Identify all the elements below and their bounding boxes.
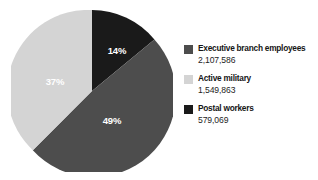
- legend-value-postal-workers: 579,069: [198, 114, 318, 126]
- legend-item-executive-branch-employees[interactable]: Executive branch employees 2,107,586: [184, 43, 318, 66]
- chart-legend: Executive branch employees 2,107,586 Act…: [184, 43, 318, 126]
- pie-slice-label-executive-branch: 49%: [103, 115, 122, 126]
- legend-label-active-military: Active military: [198, 73, 318, 84]
- legend-value-active-military: 1,549,863: [198, 84, 318, 96]
- pie-svg: 14% 49% 37%: [11, 10, 173, 172]
- legend-swatch-icon-active-military: [184, 75, 193, 84]
- legend-item-active-military[interactable]: Active military 1,549,863: [184, 73, 318, 96]
- legend-item-postal-workers[interactable]: Postal workers 579,069: [184, 103, 318, 126]
- legend-swatch-icon-executive-branch-employees: [184, 45, 193, 54]
- legend-label-executive-branch-employees: Executive branch employees: [198, 43, 318, 54]
- legend-value-executive-branch-employees: 2,107,586: [198, 54, 318, 66]
- pie-slice-label-postal-workers: 14%: [108, 45, 127, 56]
- pie-slice-label-active-military: 37%: [46, 76, 65, 87]
- pie-chart-figure: 14% 49% 37% Executive branch employees 2…: [0, 0, 318, 180]
- pie-chart-graphic: 14% 49% 37%: [11, 10, 173, 172]
- legend-swatch-icon-postal-workers: [184, 105, 193, 114]
- legend-label-postal-workers: Postal workers: [198, 103, 318, 114]
